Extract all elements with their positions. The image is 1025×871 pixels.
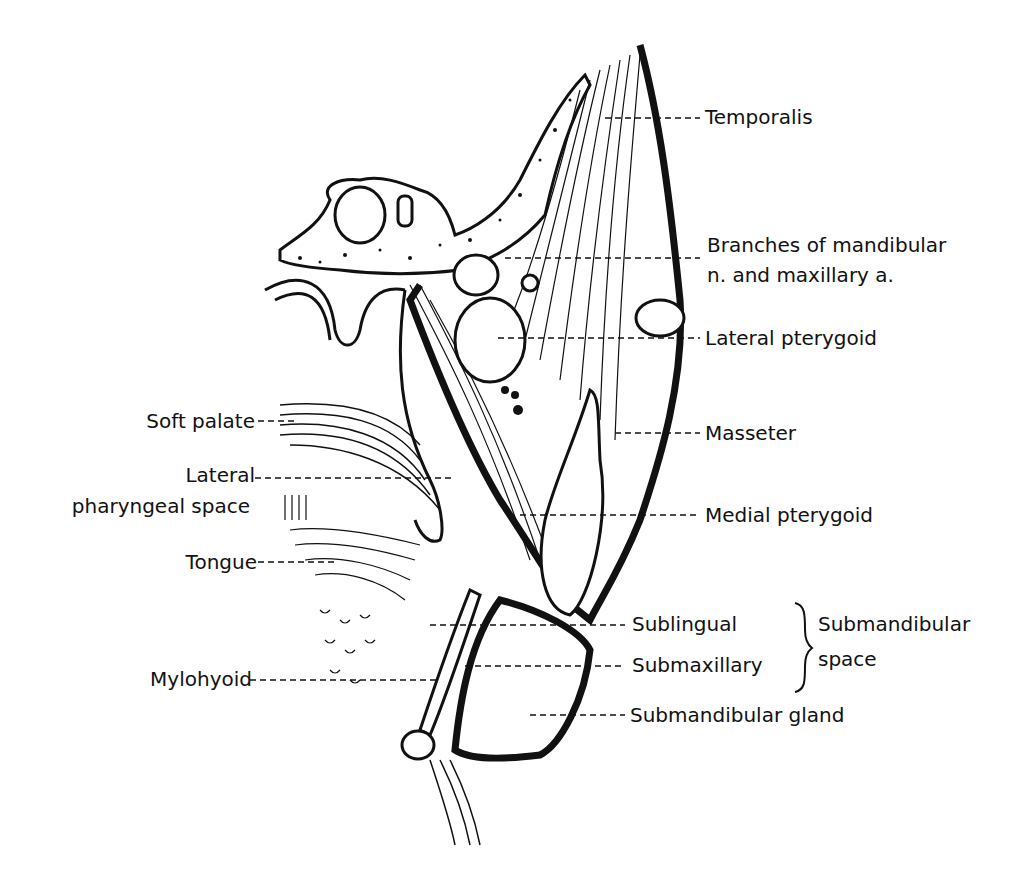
mandible [541, 390, 602, 615]
label-sublingual: Sublingual [632, 612, 737, 636]
label-submandibular-space-line1: Submandibular [818, 612, 970, 636]
soft-palate [280, 404, 440, 510]
label-submandibular-space-line2: space [818, 647, 877, 671]
label-branches-line2: n. and maxillary a. [707, 263, 894, 287]
label-masseter: Masseter [705, 421, 796, 445]
label-tongue: Tongue [186, 550, 257, 574]
label-soft-palate: Soft palate [146, 409, 255, 433]
anatomical-drawing [0, 0, 1025, 871]
lateral-pterygoid-shape [455, 298, 525, 382]
tongue [285, 495, 420, 683]
label-submaxillary: Submaxillary [632, 653, 763, 677]
label-mylohyoid: Mylohyoid [150, 667, 252, 691]
neck-muscles [430, 760, 480, 845]
nerve-branch-icon [522, 275, 538, 291]
label-lateral-pterygoid: Lateral pterygoid [705, 326, 877, 350]
muscle-mass [410, 55, 640, 560]
hyoid [402, 731, 434, 759]
label-lateral-pharyngeal-line2: pharyngeal space [72, 494, 250, 518]
palate-outline [265, 280, 405, 345]
skull-base [280, 75, 590, 274]
upper-head [454, 255, 498, 295]
label-branches-line1: Branches of mandibular [707, 233, 946, 257]
label-lateral-pharyngeal-line1: Lateral [185, 463, 255, 487]
bracket-icon [795, 603, 812, 692]
submandibular-gland [455, 600, 590, 758]
label-temporalis: Temporalis [705, 105, 813, 129]
label-submandibular-gland: Submandibular gland [630, 703, 844, 727]
coronoid [636, 300, 684, 336]
label-medial-pterygoid: Medial pterygoid [705, 503, 873, 527]
